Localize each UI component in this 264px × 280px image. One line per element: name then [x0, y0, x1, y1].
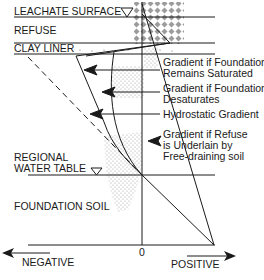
label-remains-saturated-2: Remains Saturated	[163, 67, 253, 79]
label-clay-liner: CLAY LINER	[14, 42, 75, 54]
label-water-table: WATER TABLE	[14, 162, 86, 174]
label-desaturates-2: Desaturates	[163, 93, 220, 105]
label-negative: NEGATIVE	[22, 256, 74, 268]
leachate-water-level-icon	[121, 8, 133, 17]
label-positive: POSITIVE	[171, 258, 219, 270]
water-table-level-icon	[91, 168, 102, 175]
label-hydrostatic: Hydrostatic Gradient	[163, 108, 259, 120]
label-leachate-surface: LEACHATE SURFACE	[14, 5, 121, 17]
arrow-free-draining-icon	[148, 136, 161, 146]
pore-pressure-diagram: LEACHATE SURFACE REFUSE CLAY LINER REGIO…	[0, 0, 264, 280]
label-refuse: REFUSE	[14, 24, 57, 36]
label-zero: 0	[139, 246, 145, 258]
label-foundation-soil: FOUNDATION SOIL	[14, 200, 110, 212]
label-free-draining-3: Free-draining soil	[163, 150, 244, 162]
